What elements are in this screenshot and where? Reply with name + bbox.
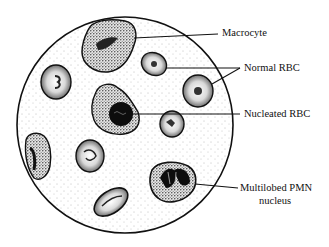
normal-rbc-cell <box>41 65 71 99</box>
blood-smear-diagram: Macrocyte Normal RBC Nucleated RBC Multi… <box>0 0 329 247</box>
label-pmn-line1: Multilobed PMN <box>240 182 312 194</box>
rbc-cell-center-left <box>76 140 104 172</box>
label-pmn-line2: nucleus <box>259 195 291 207</box>
pmn-cell <box>150 162 196 202</box>
label-normal-rbc: Normal RBC <box>244 62 300 74</box>
normal-rbc-cell-labeled-2 <box>183 75 213 107</box>
rbc-cell-small <box>160 111 184 137</box>
label-macrocyte: Macrocyte <box>222 27 267 39</box>
label-nucleated-rbc: Nucleated RBC <box>244 108 310 120</box>
